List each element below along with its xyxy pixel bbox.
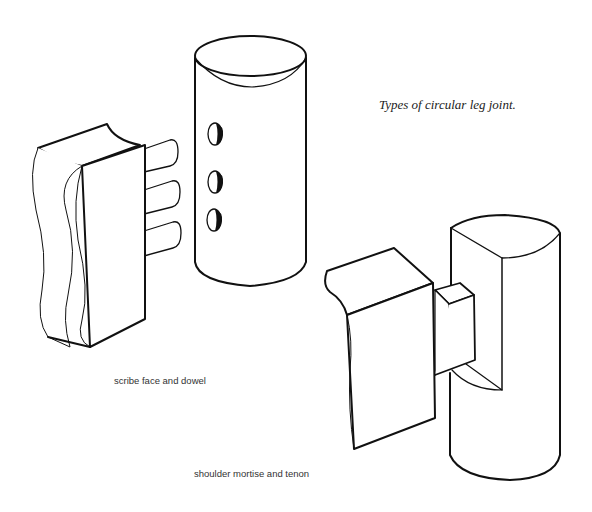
cylinder-leg-1 xyxy=(195,36,306,286)
caption-scribe-face-dowel: scribe face and dowel xyxy=(114,375,206,386)
dowels xyxy=(144,140,181,256)
tenon xyxy=(435,283,475,375)
rail-block-2 xyxy=(325,248,435,449)
diagram-canvas: Types of circular leg joint. scribe face… xyxy=(0,0,592,512)
rail-block-1 xyxy=(32,124,145,347)
scribe-face-dowel-figure xyxy=(32,36,306,347)
dowel-holes xyxy=(207,123,223,231)
shoulder-mortise-tenon-figure xyxy=(325,215,560,480)
figure-title: Types of circular leg joint. xyxy=(379,97,516,113)
joint-illustrations xyxy=(0,0,592,512)
caption-shoulder-mortise-tenon: shoulder mortise and tenon xyxy=(194,468,309,479)
